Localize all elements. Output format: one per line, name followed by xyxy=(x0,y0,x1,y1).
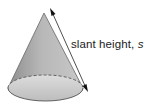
label-variable: s xyxy=(138,38,144,50)
cone-diagram xyxy=(0,0,155,112)
arrowhead-top-icon xyxy=(50,8,56,16)
label-text: slant height, xyxy=(71,38,138,50)
slant-height-label: slant height, s xyxy=(71,38,143,50)
